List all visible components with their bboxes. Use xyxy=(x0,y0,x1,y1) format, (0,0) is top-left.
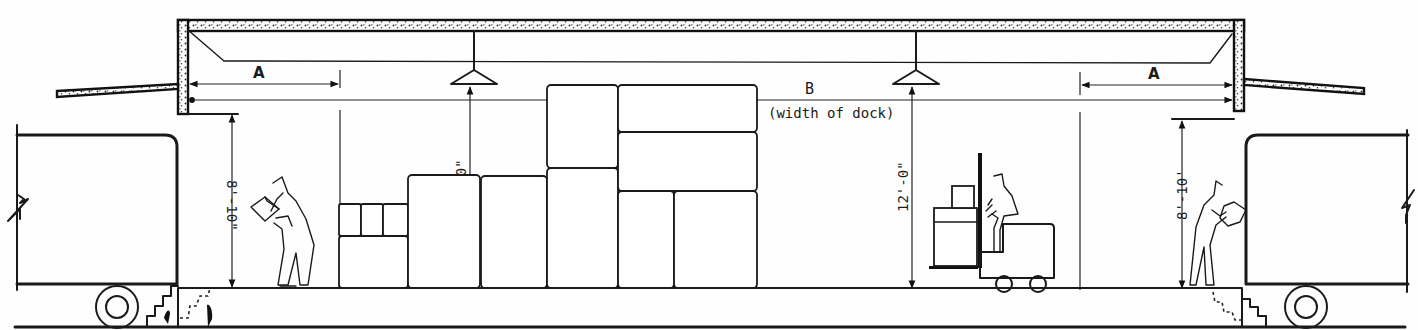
clear-height-right-label: 12'-0" xyxy=(895,161,911,212)
dimension-b-note: (width of dock) xyxy=(768,105,894,121)
roof-slab xyxy=(178,20,1244,31)
carton xyxy=(408,175,480,288)
right-truck xyxy=(1246,130,1414,328)
right-overhead-door xyxy=(1244,79,1364,94)
forklift-load xyxy=(934,208,977,266)
loading-dock-section-drawing: A A B (width of dock) 12'-0" 12'-0" 8'-1… xyxy=(0,0,1418,330)
dock-platform xyxy=(15,288,1405,327)
forklift-mast xyxy=(978,153,982,268)
dimension-a-left: A xyxy=(190,64,340,205)
left-truck xyxy=(8,125,177,328)
dimension-truck-height-right: 8'-10' xyxy=(1174,121,1190,288)
carton xyxy=(383,204,408,236)
truck-height-left-label: 8'-10" xyxy=(224,180,240,231)
canopy-left-wall xyxy=(178,20,188,114)
worker-left xyxy=(251,177,314,286)
stacked-cartons xyxy=(339,85,757,288)
steps-left xyxy=(147,286,212,327)
carton xyxy=(547,168,618,288)
dimension-clear-height-right: 12'-0" xyxy=(895,87,912,288)
forklift-with-operator xyxy=(929,153,1054,292)
left-truck-wheel xyxy=(96,286,138,328)
dimension-a-right-label: A xyxy=(1148,65,1160,83)
ceiling-line xyxy=(188,30,1232,63)
right-truck-wheel xyxy=(1285,286,1327,328)
carton xyxy=(618,132,757,191)
carton xyxy=(547,85,618,168)
carton xyxy=(618,191,674,288)
right-truck-body xyxy=(1246,135,1408,284)
left-overhead-door xyxy=(57,84,178,97)
dimension-truck-height-left: 8'-10" xyxy=(224,115,240,287)
carton xyxy=(481,176,547,288)
steps-right xyxy=(1213,292,1266,327)
pendant-light-left xyxy=(451,31,497,84)
dock-drawing-svg: A A B (width of dock) 12'-0" 12'-0" 8'-1… xyxy=(0,0,1418,330)
dock-edge xyxy=(178,288,1242,327)
forklift-body xyxy=(980,224,1054,278)
left-truck-body xyxy=(17,135,177,284)
canopy-right-wall xyxy=(1234,20,1244,111)
carton xyxy=(674,191,757,288)
pendant-light-right xyxy=(893,31,939,84)
carton xyxy=(361,204,383,236)
worker-right xyxy=(1188,181,1246,288)
carton xyxy=(339,204,361,236)
dimension-b-label: B xyxy=(805,80,814,98)
forklift-load-top xyxy=(952,186,974,208)
carton xyxy=(339,236,408,288)
dimension-a-right: A xyxy=(1080,65,1232,290)
truck-height-right-label: 8'-10' xyxy=(1174,169,1190,220)
dimension-a-left-label: A xyxy=(253,64,265,82)
carton xyxy=(618,85,757,132)
